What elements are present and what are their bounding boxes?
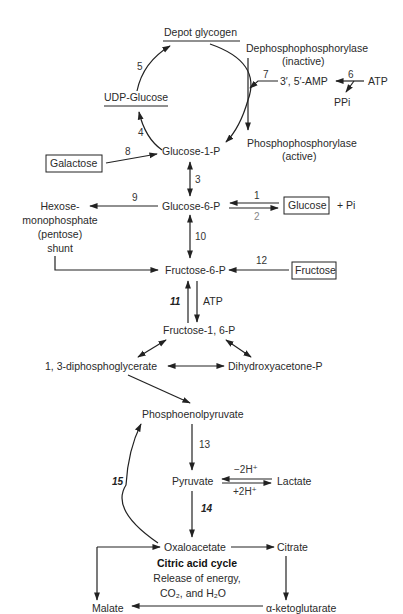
node-camp: 3′, 5′-AMP	[280, 75, 328, 87]
tca-title: Citric acid cycle	[157, 557, 237, 569]
step-14-label: 14	[201, 503, 213, 514]
node-dihydroxyacetone-p: Dihydroxyacetone-P	[228, 360, 323, 372]
arrow-f16p-to-dpg	[138, 340, 166, 357]
node-fructose: Fructose	[295, 264, 336, 276]
step-2-label: 2	[254, 211, 260, 222]
node-pi: + Pi	[337, 199, 355, 211]
tca-description-1: Release of energy,	[153, 572, 240, 584]
step-7-label: 7	[263, 69, 269, 80]
step-15-label: 15	[112, 476, 124, 487]
node-1-3-diphosphoglycerate: 1, 3-diphosphoglycerate	[45, 360, 157, 372]
node-lactate: Lactate	[277, 475, 312, 487]
step-9-label: 9	[132, 192, 138, 203]
arrow-step-7	[250, 81, 278, 88]
node-ppi: PPi	[334, 96, 350, 108]
step-4-label: 4	[138, 127, 144, 138]
node-depot-glycogen: Depot glycogen	[164, 26, 237, 38]
step-6-label: 6	[348, 69, 354, 80]
node-fructose-6-p: Fructose-6-P	[165, 264, 226, 276]
node-hmp-3: (pentose)	[38, 228, 82, 240]
tca-description-2: CO₂, and H₂O	[160, 587, 226, 599]
node-atp-mid: ATP	[203, 295, 223, 307]
step-5-label: 5	[137, 61, 143, 72]
step-3-label: 3	[195, 174, 201, 185]
node-hmp-2: monophosphate	[22, 214, 97, 226]
node-fructose-1-6-p: Fructose-1, 6-P	[163, 324, 235, 336]
node-glucose-6-p: Glucose-6-P	[162, 200, 220, 212]
node-phosphophosphorylase: Phosphophosphorylase	[247, 137, 357, 149]
node-glucose: Glucose	[288, 199, 327, 211]
label-plus-2h: +2H⁺	[233, 486, 257, 497]
node-glucose-1-p: Glucose-1-P	[162, 145, 220, 157]
node-phosphoenolpyruvate: Phosphoenolpyruvate	[142, 408, 244, 420]
node-phospho-active: (active)	[282, 150, 316, 162]
arrow-step-15	[122, 424, 158, 543]
node-udp-glucose: UDP-Glucose	[104, 91, 168, 103]
step-11-label: 11	[170, 296, 181, 307]
arrow-step-8	[106, 154, 157, 163]
node-oxaloacetate: Oxaloacetate	[164, 541, 226, 553]
arrow-hmp-to-f6p	[55, 256, 158, 270]
node-dephosphophosphorylase: Dephosphophosphorylase	[246, 42, 368, 54]
arrow-dpg-to-pep	[128, 375, 190, 403]
arrow-f16p-to-dhap	[226, 340, 251, 357]
node-pyruvate: Pyruvate	[172, 475, 214, 487]
step-8-label: 8	[125, 146, 131, 157]
step-1-label: 1	[254, 190, 260, 201]
node-dephospho-inactive: (inactive)	[282, 55, 325, 67]
node-hmp-4: shunt	[47, 242, 73, 254]
arrow-glycogen-to-g1p	[210, 44, 251, 142]
step-10-label: 10	[195, 231, 207, 242]
node-citrate: Citrate	[277, 541, 308, 553]
metabolic-pathway-diagram: Depot glycogen UDP-Glucose 5 4 Dephospho…	[0, 0, 403, 614]
node-malate: Malate	[92, 602, 124, 614]
node-alpha-ketoglutarate: α-ketoglutarate	[266, 602, 336, 614]
node-galactose: Galactose	[50, 157, 97, 169]
step-13-label: 13	[199, 439, 211, 450]
node-atp-top: ATP	[368, 75, 388, 87]
step-12-label: 12	[256, 255, 268, 266]
node-hmp-1: Hexose-	[40, 200, 80, 212]
arrow-ppi-release	[346, 81, 354, 92]
label-minus-2h: −2H⁺	[234, 464, 258, 475]
